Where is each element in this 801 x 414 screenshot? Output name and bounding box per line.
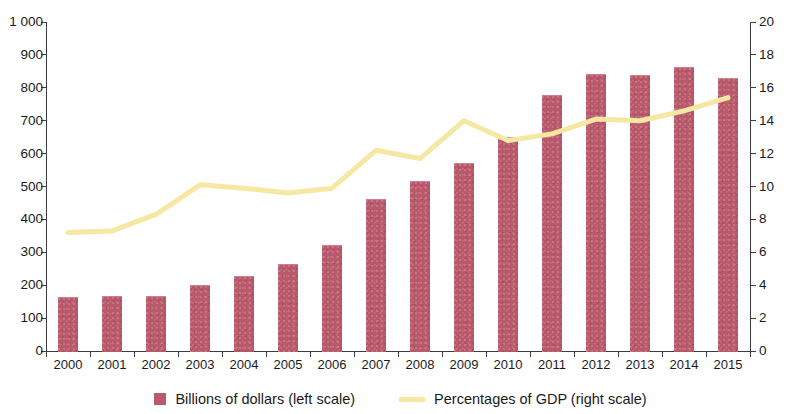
- x-tick-mark: [178, 352, 179, 357]
- x-axis-tick-label: 2003: [186, 358, 215, 371]
- x-axis-tick-label: 2009: [450, 358, 479, 371]
- legend-square-swatch-icon: [154, 393, 166, 405]
- left-axis-tick-label: 1 000: [9, 15, 43, 29]
- right-tick-mark: [751, 153, 756, 154]
- legend-label-line: Percentages of GDP (right scale): [434, 392, 647, 407]
- x-axis-tick-label: 2004: [230, 358, 259, 371]
- right-axis-tick-label: 12: [759, 147, 774, 161]
- right-tick-mark: [751, 54, 756, 55]
- x-tick-mark: [574, 352, 575, 357]
- right-axis-line: [750, 22, 751, 352]
- right-tick-mark: [751, 351, 756, 352]
- x-axis-tick-label: 2001: [98, 358, 127, 371]
- x-axis-tick-label: 2015: [714, 358, 743, 371]
- x-axis-tick-label: 2011: [538, 358, 566, 371]
- x-tick-mark: [662, 352, 663, 357]
- x-axis-tick-label: 2013: [626, 358, 655, 371]
- x-tick-mark: [618, 352, 619, 357]
- right-tick-mark: [751, 252, 756, 253]
- right-tick-mark: [751, 186, 756, 187]
- legend-item-line: Percentages of GDP (right scale): [399, 392, 647, 407]
- x-axis-tick-label: 2014: [670, 358, 699, 371]
- left-axis-tick-label: 700: [20, 114, 43, 128]
- left-axis-tick-label: 300: [20, 245, 43, 259]
- x-tick-mark: [46, 352, 47, 357]
- x-tick-mark: [310, 352, 311, 357]
- right-axis-tick-label: 6: [759, 245, 767, 259]
- right-axis-tick-label: 0: [759, 344, 767, 358]
- chart-container: 01002003004005006007008009001 000 024681…: [0, 0, 801, 414]
- x-axis-tick-label: 2002: [142, 358, 171, 371]
- left-axis-tick-label: 500: [20, 180, 43, 194]
- x-axis-tick-label: 2012: [582, 358, 611, 371]
- left-axis-tick-label: 600: [20, 147, 43, 161]
- x-axis-tick-label: 2000: [54, 358, 83, 371]
- left-axis-tick-label: 800: [20, 81, 43, 95]
- x-tick-mark: [398, 352, 399, 357]
- x-axis-tick-label: 2006: [318, 358, 347, 371]
- right-axis-tick-label: 8: [759, 212, 767, 226]
- x-axis-tick-label: 2007: [362, 358, 391, 371]
- x-tick-mark: [266, 352, 267, 357]
- left-axis-tick-label: 200: [20, 278, 43, 292]
- right-axis-tick-label: 20: [759, 15, 774, 29]
- x-axis-tick-label: 2008: [406, 358, 435, 371]
- x-tick-mark: [354, 352, 355, 357]
- left-axis-tick-label: 900: [20, 48, 43, 62]
- x-tick-mark: [530, 352, 531, 357]
- x-tick-mark: [486, 352, 487, 357]
- right-tick-mark: [751, 87, 756, 88]
- x-axis-tick-label: 2005: [274, 358, 303, 371]
- x-tick-mark: [750, 352, 751, 357]
- right-tick-mark: [751, 318, 756, 319]
- legend-label-bars: Billions of dollars (left scale): [175, 392, 355, 407]
- legend-line-swatch-icon: [399, 397, 425, 402]
- gdp-percentage-line: [68, 98, 728, 233]
- right-axis-tick-label: 14: [759, 114, 774, 128]
- right-axis-tick-label: 16: [759, 81, 774, 95]
- right-axis-tick-label: 18: [759, 48, 774, 62]
- plot-area: [46, 22, 750, 351]
- x-axis-tick-label: 2010: [494, 358, 523, 371]
- x-tick-mark: [442, 352, 443, 357]
- x-tick-mark: [90, 352, 91, 357]
- right-axis-tick-label: 4: [759, 278, 767, 292]
- x-tick-mark: [706, 352, 707, 357]
- right-tick-mark: [751, 285, 756, 286]
- right-tick-mark: [751, 219, 756, 220]
- right-axis-tick-label: 10: [759, 180, 774, 194]
- x-tick-mark: [134, 352, 135, 357]
- left-axis-tick-label: 400: [20, 212, 43, 226]
- chart-legend: Billions of dollars (left scale) Percent…: [0, 388, 801, 410]
- legend-item-bars: Billions of dollars (left scale): [154, 392, 355, 407]
- right-tick-mark: [751, 22, 756, 23]
- left-axis-tick-label: 100: [20, 311, 43, 325]
- x-tick-mark: [222, 352, 223, 357]
- left-axis-tick-label: 0: [35, 344, 43, 358]
- line-series: [46, 22, 750, 351]
- right-tick-mark: [751, 120, 756, 121]
- right-axis-tick-label: 2: [759, 311, 767, 325]
